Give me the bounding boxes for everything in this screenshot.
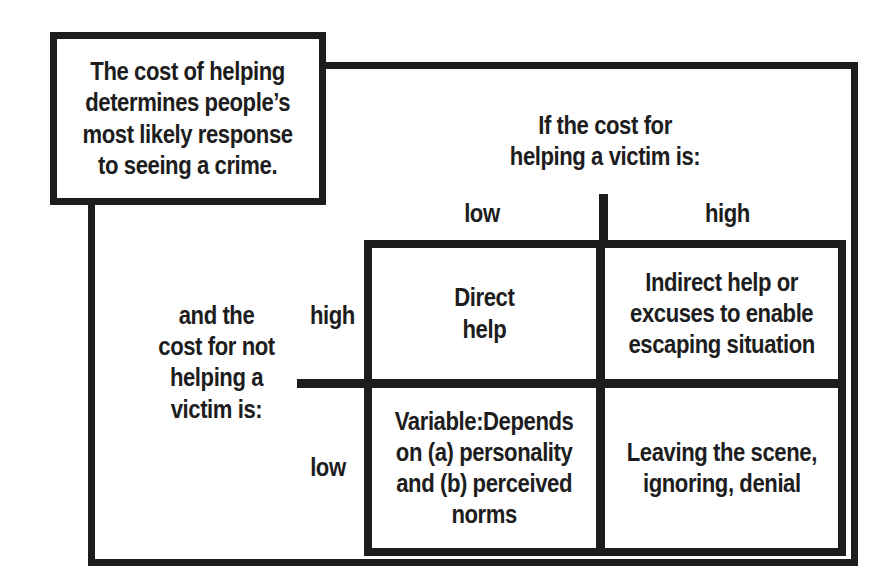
row-label-low-text: low bbox=[310, 452, 346, 483]
column-label-high: high bbox=[608, 192, 846, 236]
cell-direct-help: Direct help bbox=[372, 248, 605, 388]
row-label-high: high bbox=[299, 297, 365, 335]
column-divider-stub bbox=[599, 194, 608, 242]
cell-variable-response: Variable:Depends on (a) personality and … bbox=[372, 388, 605, 548]
column-label-low: low bbox=[364, 192, 599, 236]
row-axis-header-text: and the cost for not helping a victim is… bbox=[158, 300, 274, 425]
title-box: The cost of helping determines people’s … bbox=[50, 32, 326, 205]
column-axis-header-text: If the cost for helping a victim is: bbox=[510, 110, 700, 172]
decision-matrix: Direct help Indirect help or excuses to … bbox=[364, 240, 846, 556]
cell-leaving-scene: Leaving the scene, ignoring, denial bbox=[605, 388, 838, 548]
cell-leaving-scene-text: Leaving the scene, ignoring, denial bbox=[626, 437, 816, 499]
cell-direct-help-text: Direct help bbox=[454, 282, 514, 344]
row-label-low: low bbox=[295, 449, 361, 487]
cell-indirect-help: Indirect help or excuses to enable escap… bbox=[605, 248, 838, 388]
row-divider-stub bbox=[297, 379, 367, 388]
column-label-high-text: high bbox=[705, 198, 750, 229]
cell-indirect-help-text: Indirect help or excuses to enable escap… bbox=[628, 267, 814, 361]
row-axis-header: and the cost for not helping a victim is… bbox=[118, 300, 314, 430]
column-axis-header: If the cost for helping a victim is: bbox=[364, 110, 846, 178]
column-label-low-text: low bbox=[464, 198, 500, 229]
row-label-high-text: high bbox=[310, 300, 355, 331]
title-text: The cost of helping determines people’s … bbox=[83, 56, 293, 181]
figure-canvas: The cost of helping determines people’s … bbox=[0, 0, 894, 588]
cell-variable-response-text: Variable:Depends on (a) personality and … bbox=[395, 406, 574, 531]
